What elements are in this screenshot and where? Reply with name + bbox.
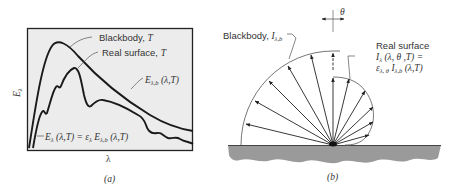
label-real-surface: Real surface, T xyxy=(102,47,167,58)
surface-body xyxy=(228,145,441,163)
leader-blackbody-b xyxy=(287,34,296,59)
real-surface-arrows xyxy=(333,78,373,145)
label-real-b-line2: Iλ (λ, θ ,T) = xyxy=(375,52,423,63)
leader-real-b xyxy=(348,56,355,79)
caption-a: (a) xyxy=(104,174,115,185)
theta-label: θ xyxy=(340,7,345,17)
caption-b: (b) xyxy=(327,172,338,183)
blackbody-arrows xyxy=(246,55,333,145)
label-blackbody-b: Blackbody, Iλ,b xyxy=(223,30,283,42)
panel-a: Blackbody, T Real surface, T Eλ,b (λ,T) … xyxy=(12,29,193,186)
y-axis-label: Eλ xyxy=(12,88,23,98)
x-axis-label: λ xyxy=(106,154,111,164)
label-real-b-line1: Real surface xyxy=(376,40,429,51)
label-blackbody: Blackbody, T xyxy=(99,32,153,43)
label-ebb: Eλ,b (λ,T) xyxy=(144,75,179,86)
figure-canvas: Blackbody, T Real surface, T Eλ,b (λ,T) … xyxy=(0,0,457,192)
label-real-b-line3: ελ, θ Iλ,b (λ,T) xyxy=(376,63,423,74)
label-equation: Eλ (λ,T) = ελ Eλ,b (λ,T) xyxy=(44,132,128,143)
panel-b: θ Blackbody, Iλ,b xyxy=(223,7,441,183)
emission-point xyxy=(329,142,337,147)
theta-indicator: θ xyxy=(322,7,345,32)
